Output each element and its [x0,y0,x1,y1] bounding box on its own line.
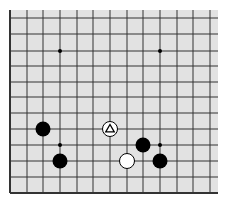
black-stone[interactable] [153,154,168,169]
star-point-icon [58,143,62,147]
black-stone-icon [153,154,168,169]
white-stone[interactable] [120,154,135,169]
black-stone[interactable] [36,122,51,137]
white-stone-icon [120,154,135,169]
white-stone[interactable] [103,122,118,137]
black-stone[interactable] [136,138,151,153]
go-board[interactable] [0,0,230,204]
black-stone-icon [53,154,68,169]
black-stone-icon [136,138,151,153]
black-stone-icon [36,122,51,137]
star-point-icon [158,49,162,53]
star-point-icon [58,49,62,53]
black-stone[interactable] [53,154,68,169]
board-background [10,10,218,194]
star-point-icon [158,143,162,147]
